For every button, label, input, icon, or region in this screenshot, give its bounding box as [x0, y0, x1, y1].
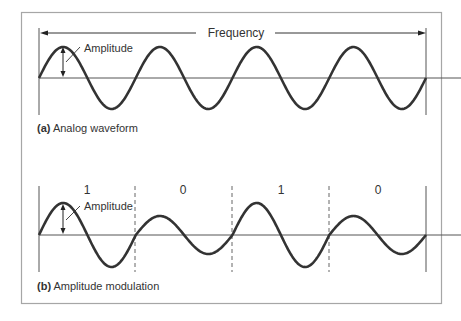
bit-label: 0	[180, 183, 187, 197]
arrowhead-left-icon	[40, 31, 48, 36]
bit-label: 1	[84, 183, 91, 197]
caption-a-text: Analog waveform	[53, 122, 138, 134]
caption-b: (b) Amplitude modulation	[37, 280, 159, 292]
panel-amplitude-modulation: 1 0 1 0 Amplitude (b) Amplitude modulati…	[37, 183, 461, 292]
amplitude-label: Amplitude	[84, 200, 133, 212]
panel-analog-waveform: Frequency Amplitude (a) Analog waveform	[37, 26, 461, 134]
arrowhead-up-icon	[61, 204, 66, 210]
caption-b-text: Amplitude modulation	[54, 280, 160, 292]
arrowhead-right-icon	[418, 31, 426, 36]
frequency-label: Frequency	[208, 26, 265, 40]
arrowhead-down-icon	[61, 71, 66, 77]
caption-a: (a) Analog waveform	[37, 122, 138, 134]
bit-label: 1	[278, 183, 285, 197]
waveform-diagram: Frequency Amplitude (a) Analog waveform …	[0, 0, 461, 321]
amplitude-label: Amplitude	[84, 42, 133, 54]
bit-label: 0	[375, 183, 382, 197]
arrowhead-down-icon	[61, 228, 66, 234]
caption-b-prefix: (b)	[37, 280, 51, 292]
caption-a-prefix: (a)	[37, 122, 51, 134]
